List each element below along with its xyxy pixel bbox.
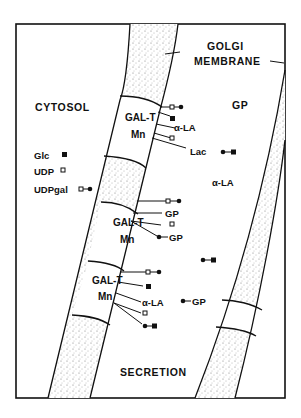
golgi-diagram: CYTOSOL GOLGI MEMBRANE GP SECRETION Glc … [0,0,301,418]
alpha-la-free-label: α-LA [212,177,234,188]
legend-glc-label: Glc [34,150,49,161]
alpha-la-label-3: α-LA [142,297,164,308]
udp-square-icon [170,105,174,109]
golgi-membrane-left [48,24,178,398]
udpgal-circle-icon [88,187,93,192]
enzyme-2-cofactor: Mn [120,234,134,245]
gp-label-2: GP [165,208,179,219]
enzyme-1-name: GAL-T [125,112,156,123]
gp-label-2b: GP [169,232,183,243]
udp-square-icon [146,270,150,274]
gal-circle-icon [157,270,162,275]
enzyme-1-cofactor: Mn [131,129,145,140]
alpha-la-label-1: α-LA [174,122,196,133]
udp-square-icon [170,136,174,140]
glc-square-icon [62,152,67,157]
legend: Glc UDP UDPgal [34,150,92,195]
lac-label: Lac [190,146,206,157]
lumen-lactose-2 [201,258,216,263]
gal-circle-icon [179,105,184,110]
secretion-label: SECRETION [120,366,187,378]
udp-square-icon [61,168,65,172]
legend-udpgal-label: UDPgal [34,184,68,195]
enzyme-3-name: GAL-T [92,275,123,286]
membrane-pointer-right [270,61,284,63]
lumen-lactose-1 [221,150,236,155]
golgi-membrane-right [195,70,285,398]
udp-square-icon [170,222,174,226]
enzyme-3-cofactor: Mn [98,291,112,302]
legend-udp-label: UDP [34,166,55,177]
lactose-square-icon [152,324,157,329]
udp-square-icon [166,199,170,203]
gal-circle-icon [157,235,162,240]
membrane-label: MEMBRANE [194,55,261,67]
golgi-label: GOLGI [207,40,244,52]
glc-square-icon [146,284,151,289]
cytosol-label: CYTOSOL [35,101,90,113]
glc-square-icon [170,116,175,121]
udpgal-square-icon [79,187,83,191]
gal-circle-icon [177,199,182,204]
udp-square-icon [143,311,147,315]
gp-lumen-label: GP [232,99,248,111]
lumen-gp-3: GP [181,296,207,307]
gp-label-3: GP [192,296,206,307]
